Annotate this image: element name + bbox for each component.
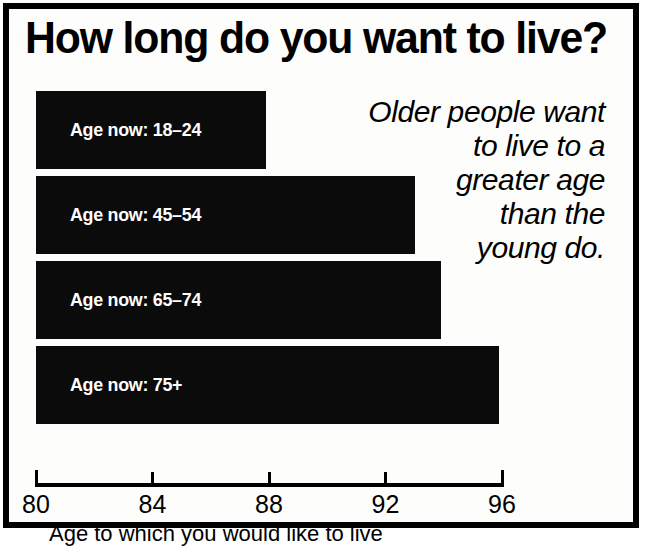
bar-label-45-54: Age now: 45–54 bbox=[70, 176, 201, 254]
chart-figure: How long do you want to live? Age now: 1… bbox=[3, 3, 639, 528]
bar-label-75-plus: Age now: 75+ bbox=[70, 346, 182, 424]
axis-tick-label: 88 bbox=[255, 490, 283, 518]
annotation-line: than the bbox=[325, 197, 605, 231]
axis-tick-label: 80 bbox=[22, 490, 50, 518]
annotation-line: to live to a bbox=[325, 129, 605, 163]
axis-tick bbox=[268, 472, 271, 487]
axis-tick-label: 84 bbox=[139, 490, 167, 518]
x-axis: 80 84 88 92 96 Age to which you would li… bbox=[9, 464, 633, 522]
plot-area: Age now: 18–24 Age now: 45–54 Age now: 6… bbox=[9, 69, 633, 469]
axis-tick bbox=[35, 470, 38, 487]
annotation-line: Older people want bbox=[325, 95, 605, 129]
axis-tick bbox=[151, 472, 154, 487]
chart-annotation: Older people want to live to a greater a… bbox=[325, 95, 605, 265]
bar-label-18-24: Age now: 18–24 bbox=[70, 91, 201, 169]
x-axis-label: Age to which you would like to live bbox=[49, 521, 383, 547]
axis-tick bbox=[384, 472, 387, 487]
axis-tick-label: 92 bbox=[372, 490, 400, 518]
axis-tick bbox=[501, 470, 504, 487]
annotation-line: greater age bbox=[325, 163, 605, 197]
page-title: How long do you want to live? bbox=[25, 11, 595, 67]
axis-tick-label: 96 bbox=[488, 490, 516, 518]
bar-label-65-74: Age now: 65–74 bbox=[70, 261, 201, 339]
figure-inner: How long do you want to live? Age now: 1… bbox=[9, 9, 633, 522]
annotation-line: young do. bbox=[325, 231, 605, 265]
